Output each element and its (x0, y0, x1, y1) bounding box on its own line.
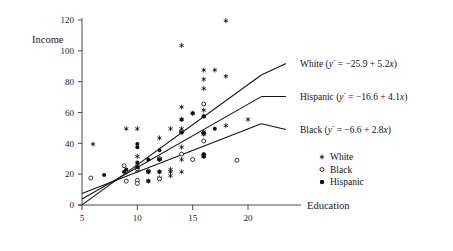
marker-asterisk (135, 154, 139, 159)
y-tick-label: 100 (61, 46, 75, 56)
x-axis-ticks: 5101520 (80, 205, 253, 223)
marker-asterisk (224, 123, 228, 128)
marker-open-circle (191, 158, 195, 162)
marker-open-circle (157, 177, 161, 181)
marker-filled-dot (135, 165, 139, 169)
marker-filled-dot (213, 127, 217, 131)
marker-filled-dot (124, 168, 128, 172)
marker-open-circle (202, 102, 206, 106)
marker-filled-dot (135, 145, 139, 149)
y-tick-label: 20 (65, 169, 75, 179)
marker-asterisk (224, 18, 228, 23)
leader-line-white (261, 64, 286, 75)
legend-marker-filled-dot (320, 180, 324, 184)
equation-label-black: Black (yˆ = −6.6 + 2.8x) (300, 124, 391, 136)
marker-filled-dot (157, 148, 161, 152)
marker-filled-dot (202, 114, 206, 118)
marker-filled-dot (102, 173, 106, 177)
regression-lines (82, 75, 261, 205)
marker-filled-dot (180, 131, 184, 135)
y-tick-label: 80 (65, 77, 75, 87)
marker-asterisk (179, 157, 183, 162)
x-tick-label: 5 (80, 213, 85, 223)
marker-open-circle (122, 164, 126, 168)
legend-label: White (330, 152, 353, 162)
marker-filled-dot (146, 179, 150, 183)
marker-open-circle (235, 158, 239, 162)
regression-line-black (82, 124, 261, 194)
marker-asterisk (168, 126, 172, 131)
equation-label-white: White (yˆ = −25.9 + 5.2x) (300, 58, 397, 70)
marker-asterisk (213, 68, 217, 73)
legend: WhiteBlackHispanic (320, 152, 364, 187)
marker-filled-dot (202, 131, 206, 135)
equation-label-hispanic: Hispanic (yˆ = −16.6 + 4.1x) (300, 91, 407, 103)
marker-asterisk (135, 126, 139, 131)
y-tick-label: 60 (65, 108, 75, 118)
x-tick-label: 15 (188, 213, 198, 223)
marker-asterisk (168, 173, 172, 178)
marker-asterisk (157, 135, 161, 140)
legend-marker-open-circle (320, 168, 324, 172)
y-tick-label: 40 (65, 139, 75, 149)
marker-asterisk (179, 43, 183, 48)
legend-item-black: Black (320, 165, 352, 175)
legend-label: Hispanic (330, 177, 364, 187)
marker-filled-dot (157, 170, 161, 174)
marker-asterisk (91, 142, 95, 147)
marker-filled-dot (202, 154, 206, 158)
marker-filled-dot (146, 170, 150, 174)
y-tick-label: 120 (61, 15, 75, 25)
marker-open-circle (202, 139, 206, 143)
marker-open-circle (124, 179, 128, 183)
y-tick-label: 0 (70, 200, 75, 210)
marker-open-circle (180, 152, 184, 156)
marker-asterisk (202, 68, 206, 73)
marker-open-circle (135, 181, 139, 185)
marker-filled-dot (135, 161, 139, 165)
marker-asterisk (246, 117, 250, 122)
marker-asterisk (179, 145, 183, 150)
marker-asterisk (179, 169, 183, 174)
marker-filled-dot (191, 111, 195, 115)
y-axis-title: Income (32, 34, 64, 45)
marker-asterisk (224, 74, 228, 79)
axes (78, 18, 301, 205)
x-tick-label: 10 (133, 213, 143, 223)
marker-filled-dot (146, 158, 150, 162)
marker-asterisk (124, 126, 128, 131)
label-leader-lines (261, 64, 286, 130)
leader-line-black (261, 124, 286, 130)
regression-line-white (82, 75, 261, 205)
chart-figure: 020406080100120 5101520 Income Education… (0, 0, 453, 251)
marker-filled-dot (157, 158, 161, 162)
legend-label: Black (330, 165, 352, 175)
marker-asterisk (202, 108, 206, 113)
marker-asterisk (202, 77, 206, 82)
series-black (89, 102, 239, 185)
marker-filled-dot (180, 117, 184, 121)
scatter-plot-canvas: 020406080100120 5101520 Income Education… (0, 0, 453, 251)
equation-labels: White (yˆ = −25.9 + 5.2x)Hispanic (yˆ = … (300, 58, 407, 136)
x-tick-label: 20 (244, 213, 254, 223)
marker-asterisk (202, 86, 206, 91)
marker-asterisk (320, 155, 324, 160)
data-points (89, 18, 250, 185)
legend-item-hispanic: Hispanic (320, 177, 364, 187)
marker-open-circle (89, 176, 93, 180)
marker-asterisk (179, 105, 183, 110)
legend-item-white: White (320, 152, 353, 162)
y-axis-ticks: 020406080100120 (61, 15, 83, 210)
x-axis-title: Education (307, 200, 350, 211)
